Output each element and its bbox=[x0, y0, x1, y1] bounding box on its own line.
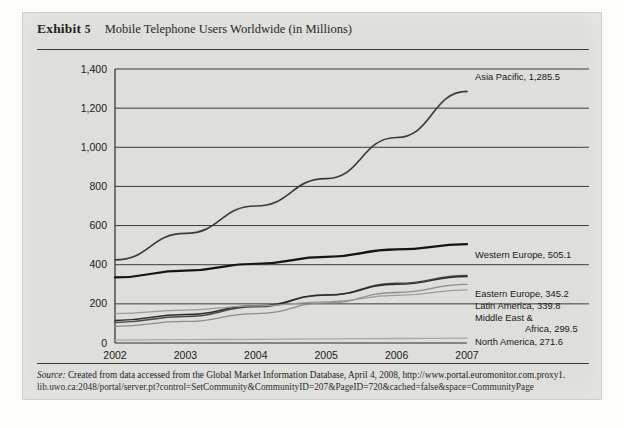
series-line-latin-america bbox=[115, 276, 467, 320]
series-label-latin-america: Latin America, 339.8 bbox=[475, 300, 560, 311]
header-divider bbox=[37, 49, 589, 50]
x-tick-label: 2006 bbox=[385, 349, 409, 361]
exhibit-label: Exhibit 5 bbox=[37, 21, 91, 37]
y-tick-label: 1,400 bbox=[81, 63, 107, 75]
exhibit-label-text: Exhibit bbox=[37, 21, 81, 36]
exhibit-panel: Exhibit 5 Mobile Telephone Users Worldwi… bbox=[22, 12, 602, 400]
source-note: Source: Created from data accessed from … bbox=[37, 369, 591, 394]
series-label-north-america: North America, 271.6 bbox=[475, 336, 563, 347]
chart-plot-area: 02004006008001,0001,2001,400 20022003200… bbox=[37, 53, 589, 361]
y-tick-label: 0 bbox=[101, 337, 107, 349]
source-line-2: lib.uwo.ca:2048/portal/server.pt?control… bbox=[37, 381, 591, 393]
x-tick-label: 2005 bbox=[315, 349, 339, 361]
series-label-middle-east-africa-line2: Africa, 299.5 bbox=[525, 323, 578, 334]
exhibit-header: Exhibit 5 Mobile Telephone Users Worldwi… bbox=[37, 21, 589, 47]
series-line-north-america bbox=[115, 290, 467, 314]
y-tick-label: 1,000 bbox=[81, 141, 107, 153]
chart-y-tick-labels: 02004006008001,0001,2001,400 bbox=[81, 63, 107, 349]
footer-divider bbox=[37, 363, 589, 364]
series-label-middle-east-africa: Middle East & bbox=[475, 312, 534, 323]
exhibit-title: Mobile Telephone Users Worldwide (in Mil… bbox=[105, 22, 352, 37]
series-label-western-europe: Western Europe, 505.1 bbox=[475, 249, 571, 260]
x-tick-label: 2007 bbox=[455, 349, 479, 361]
series-label-asia-pacific: Asia Pacific, 1,285.5 bbox=[475, 71, 560, 82]
y-tick-label: 400 bbox=[89, 258, 107, 270]
x-tick-label: 2002 bbox=[103, 349, 127, 361]
chart-x-tick-labels: 200220032004200520062007 bbox=[103, 349, 479, 361]
chart-series-labels: Asia Pacific, 1,285.5Western Europe, 505… bbox=[475, 71, 578, 361]
y-tick-label: 800 bbox=[89, 180, 107, 192]
y-tick-label: 600 bbox=[89, 219, 107, 231]
y-tick-label: 200 bbox=[89, 297, 107, 309]
chart-gridlines bbox=[115, 69, 589, 304]
line-chart-svg: 02004006008001,0001,2001,400 20022003200… bbox=[37, 53, 589, 361]
exhibit-number: 5 bbox=[85, 23, 91, 35]
series-line-western-europe bbox=[115, 244, 467, 277]
series-line-australasia bbox=[115, 338, 467, 340]
series-line-middle-east-africa bbox=[115, 284, 467, 326]
x-tick-label: 2004 bbox=[244, 349, 268, 361]
x-tick-label: 2003 bbox=[174, 349, 198, 361]
chart-series-lines bbox=[115, 91, 467, 340]
source-line-1: Created from data accessed from the Glob… bbox=[66, 370, 566, 380]
y-tick-label: 1,200 bbox=[81, 102, 107, 114]
series-line-asia-pacific bbox=[115, 91, 467, 259]
source-prefix: Source: bbox=[37, 370, 66, 380]
series-label-eastern-europe: Eastern Europe, 345.2 bbox=[475, 288, 569, 299]
